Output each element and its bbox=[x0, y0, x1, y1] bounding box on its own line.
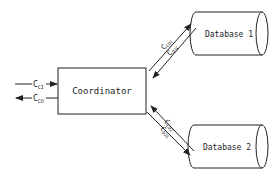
output-edge: CCO bbox=[16, 92, 58, 104]
database-2-label: Database 2 bbox=[203, 143, 251, 152]
database-2-node: Database 2 bbox=[188, 125, 268, 168]
database-1-label: Database 1 bbox=[205, 30, 253, 39]
diagram-canvas: Coordinator Database 1 Database 2 CCI CC… bbox=[0, 0, 279, 180]
input-edge: CCI bbox=[15, 78, 57, 90]
coordinator-node: Coordinator bbox=[58, 68, 146, 114]
database-1-node: Database 1 bbox=[190, 12, 268, 55]
coordinator-label: Coordinator bbox=[72, 86, 132, 96]
coordinator-db2-edges: CCD2 CD2C bbox=[147, 106, 194, 155]
coordinator-db1-edges: CCD1 CD1C bbox=[149, 24, 196, 78]
